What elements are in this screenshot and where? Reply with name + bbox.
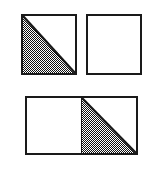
figure-canvas [0,0,159,174]
square-bottom-right [81,96,138,155]
shaded-triangle-lower-left [23,16,75,73]
square-top-left [21,14,77,75]
shaded-triangle-lower-left [82,98,136,153]
square-top-right [86,14,142,75]
square-bottom-left [25,96,82,155]
